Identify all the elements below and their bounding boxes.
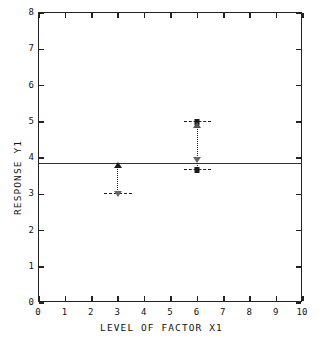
x-tick-label: 8 <box>246 307 251 317</box>
x-tick-label: 1 <box>62 307 67 317</box>
x-tick-top <box>117 13 119 18</box>
data-point-marker <box>114 162 122 168</box>
y-tick <box>39 194 44 196</box>
y-tick-right <box>296 85 301 87</box>
x-tick <box>170 296 172 301</box>
x-tick <box>276 296 278 301</box>
x-tick-top <box>223 13 225 18</box>
x-tick-label: 2 <box>88 307 93 317</box>
y-tick-label: 7 <box>22 43 34 53</box>
x-tick <box>144 296 146 301</box>
x-tick-label: 3 <box>114 307 119 317</box>
x-tick-top <box>38 13 40 18</box>
x-tick-top <box>144 13 146 18</box>
y-tick-right <box>296 157 301 159</box>
y-tick-label: 1 <box>22 261 34 271</box>
data-point-marker <box>193 157 201 163</box>
x-axis-title: LEVEL OF FACTOR X1 <box>0 322 323 333</box>
x-tick-label: 6 <box>194 307 199 317</box>
y-tick-right <box>296 230 301 232</box>
y-tick-right <box>296 266 301 268</box>
x-tick-top <box>170 13 172 18</box>
x-tick-top <box>197 13 199 18</box>
y-tick-label: 3 <box>22 188 34 198</box>
data-point-marker <box>195 167 200 173</box>
x-tick-top <box>91 13 93 18</box>
x-tick <box>197 296 199 301</box>
x-tick-label: 5 <box>167 307 172 317</box>
y-tick <box>39 302 44 304</box>
y-tick <box>39 266 44 268</box>
x-tick-top <box>65 13 67 18</box>
y-tick <box>39 85 44 87</box>
x-tick <box>65 296 67 301</box>
reference-line <box>39 163 301 164</box>
y-tick-label: 2 <box>22 225 34 235</box>
y-tick <box>39 121 44 123</box>
y-tick-label: 8 <box>22 7 34 17</box>
x-tick-top <box>302 13 304 18</box>
x-tick <box>223 296 225 301</box>
plot-area <box>38 12 302 302</box>
x-tick <box>249 296 251 301</box>
y-tick-right <box>296 121 301 123</box>
x-tick-top <box>249 13 251 18</box>
y-tick-label: 6 <box>22 80 34 90</box>
x-tick-label: 0 <box>35 307 40 317</box>
y-tick <box>39 230 44 232</box>
y-tick-right <box>296 194 301 196</box>
y-tick <box>39 49 44 51</box>
x-tick-label: 10 <box>297 307 308 317</box>
x-tick-label: 9 <box>273 307 278 317</box>
data-point-marker <box>114 191 122 197</box>
x-tick-label: 7 <box>220 307 225 317</box>
y-tick-right <box>296 302 301 304</box>
y-tick-label: 4 <box>22 152 34 162</box>
x-tick <box>91 296 93 301</box>
x-tick-label: 4 <box>141 307 146 317</box>
x-tick <box>302 296 304 301</box>
x-tick-top <box>276 13 278 18</box>
y-tick <box>39 12 44 14</box>
y-tick-label: 5 <box>22 116 34 126</box>
chart-container: LEVEL OF FACTOR X1 RESPONSE Y1 012345678… <box>0 0 323 338</box>
y-tick-right <box>296 12 301 14</box>
x-tick <box>38 296 40 301</box>
y-tick <box>39 157 44 159</box>
group-connector <box>117 165 118 195</box>
y-tick-right <box>296 49 301 51</box>
x-tick <box>117 296 119 301</box>
y-tick-label: 0 <box>22 297 34 307</box>
data-point-marker <box>193 122 201 128</box>
